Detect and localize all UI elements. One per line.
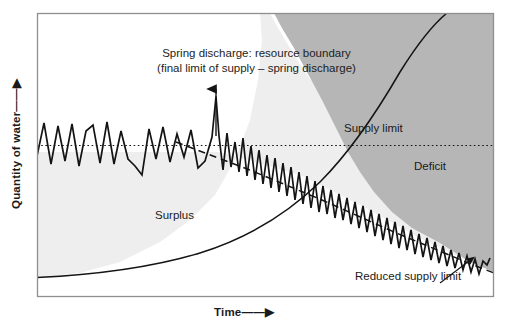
y-axis-arrow-icon: ——▶ [10,79,22,112]
y-axis-title: Quantity of water——▶ [9,89,23,209]
annotation-spring-discharge: Spring discharge: resource boundary (fin… [0,46,513,76]
y-axis-title-text: Quantity of water [10,112,22,209]
x-axis-arrow-icon: ——▶ [241,306,274,318]
annotation-line-2: (final limit of supply – spring discharg… [0,61,513,76]
annotation-line-1: Spring discharge: resource boundary [0,46,513,61]
x-axis-title-text: Time [214,306,241,318]
water-balance-chart: Spring discharge: resource boundary (fin… [0,0,513,329]
x-axis-title: Time——▶ [214,305,274,319]
supply-limit-label: Supply limit [344,122,403,134]
deficit-label: Deficit [414,160,446,172]
reduced-supply-limit-label: Reduced supply limit [355,270,461,282]
surplus-label: Surplus [155,209,194,221]
